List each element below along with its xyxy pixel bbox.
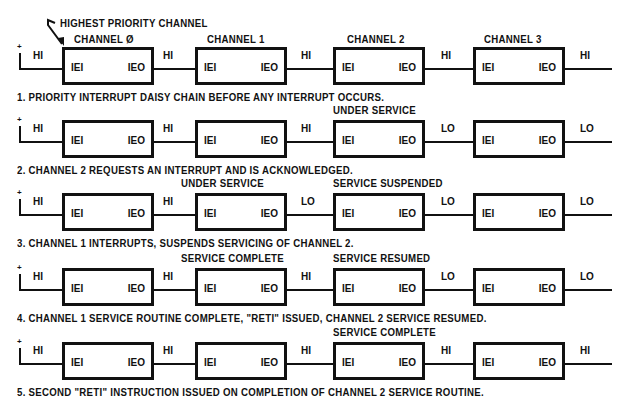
supply-wire <box>19 53 21 69</box>
channel-box-1: IEIIEO <box>195 47 287 85</box>
step-caption: 1. PRIORITY INTERRUPT DAISY CHAIN BEFORE… <box>17 92 384 103</box>
signal-level-4: LO <box>580 123 594 134</box>
channel-label-3: CHANNEL 3 <box>484 34 542 45</box>
channel-box-0: IEIIEO <box>62 193 154 231</box>
ieo-pin-label: IEO <box>128 135 145 146</box>
iei-pin-label: IEI <box>482 62 494 73</box>
channel-box-3: IEIIEO <box>473 47 565 85</box>
channel-box-0: IEIIEO <box>62 47 154 85</box>
channel-box-2: IEIIEO <box>333 268 425 306</box>
signal-level-0: HI <box>33 345 43 356</box>
supply-wire <box>19 348 21 364</box>
iei-pin-label: IEI <box>482 283 494 294</box>
chain-wire-3 <box>425 289 473 291</box>
signal-level-3: LO <box>441 271 455 282</box>
channel-box-2: IEIIEO <box>333 47 425 85</box>
channel-box-2: IEIIEO <box>333 193 425 231</box>
chain-wire-0 <box>19 289 62 291</box>
ieo-pin-label: IEO <box>261 283 278 294</box>
supply-wire <box>19 199 21 215</box>
signal-level-2: LO <box>301 196 315 207</box>
ieo-pin-label: IEO <box>399 357 416 368</box>
chain-wire-0 <box>19 363 62 365</box>
iei-pin-label: IEI <box>204 135 216 146</box>
channel-status-2: SERVICE COMPLETE <box>333 327 436 338</box>
channel-box-3: IEIIEO <box>473 342 565 380</box>
channel-box-1: IEIIEO <box>195 268 287 306</box>
chain-wire-3 <box>425 363 473 365</box>
chain-wire-3 <box>425 141 473 143</box>
supply-wire <box>19 274 21 290</box>
signal-level-3: HI <box>441 50 451 61</box>
channel-box-2: IEIIEO <box>333 120 425 158</box>
channel-status-2: SERVICE SUSPENDED <box>333 178 443 189</box>
signal-level-3: HI <box>441 345 451 356</box>
signal-level-4: HI <box>580 345 590 356</box>
iei-pin-label: IEI <box>71 135 83 146</box>
iei-pin-label: IEI <box>342 62 354 73</box>
chain-wire-2 <box>287 289 333 291</box>
iei-pin-label: IEI <box>204 62 216 73</box>
chain-wire-0 <box>19 214 62 216</box>
iei-pin-label: IEI <box>71 62 83 73</box>
chain-wire-2 <box>287 214 333 216</box>
ieo-pin-label: IEO <box>261 357 278 368</box>
supply-plus-symbol: + <box>17 188 22 197</box>
signal-level-3: LO <box>441 196 455 207</box>
channel-box-3: IEIIEO <box>473 193 565 231</box>
channel-box-1: IEIIEO <box>195 120 287 158</box>
ieo-pin-label: IEO <box>539 208 556 219</box>
ieo-pin-label: IEO <box>539 283 556 294</box>
ieo-pin-label: IEO <box>261 135 278 146</box>
chain-wire-4 <box>565 363 612 365</box>
ieo-pin-label: IEO <box>128 62 145 73</box>
chain-wire-3 <box>425 68 473 70</box>
channel-box-1: IEIIEO <box>195 342 287 380</box>
iei-pin-label: IEI <box>342 135 354 146</box>
channel-status-2: SERVICE RESUMED <box>333 253 430 264</box>
chain-wire-1 <box>154 214 195 216</box>
channel-status-1: UNDER SERVICE <box>181 178 264 189</box>
channel-box-1: IEIIEO <box>195 193 287 231</box>
step-caption: 4. CHANNEL 1 SERVICE ROUTINE COMPLETE, "… <box>17 313 487 324</box>
chain-wire-0 <box>19 68 62 70</box>
ieo-pin-label: IEO <box>128 283 145 294</box>
iei-pin-label: IEI <box>204 283 216 294</box>
signal-level-2: HI <box>301 123 311 134</box>
channel-box-0: IEIIEO <box>62 268 154 306</box>
iei-pin-label: IEI <box>482 208 494 219</box>
ieo-pin-label: IEO <box>539 357 556 368</box>
step-caption: 3. CHANNEL 1 INTERRUPTS, SUSPENDS SERVIC… <box>17 238 354 249</box>
supply-plus-symbol: + <box>17 115 22 124</box>
signal-level-0: HI <box>33 123 43 134</box>
chain-wire-1 <box>154 141 195 143</box>
channel-box-0: IEIIEO <box>62 342 154 380</box>
chain-wire-4 <box>565 289 612 291</box>
iei-pin-label: IEI <box>71 208 83 219</box>
chain-wire-1 <box>154 363 195 365</box>
signal-level-1: HI <box>163 271 173 282</box>
chain-wire-2 <box>287 363 333 365</box>
signal-level-2: HI <box>301 271 311 282</box>
chain-wire-2 <box>287 68 333 70</box>
supply-plus-symbol: + <box>17 263 22 272</box>
signal-level-1: HI <box>163 196 173 207</box>
step-caption: 2. CHANNEL 2 REQUESTS AN INTERRUPT AND I… <box>17 165 353 176</box>
chain-wire-4 <box>565 68 612 70</box>
supply-plus-symbol: + <box>17 42 22 51</box>
chain-wire-1 <box>154 68 195 70</box>
ieo-pin-label: IEO <box>128 208 145 219</box>
chain-wire-4 <box>565 214 612 216</box>
chain-wire-2 <box>287 141 333 143</box>
iei-pin-label: IEI <box>342 283 354 294</box>
signal-level-1: HI <box>163 123 173 134</box>
ieo-pin-label: IEO <box>128 357 145 368</box>
iei-pin-label: IEI <box>342 357 354 368</box>
chain-wire-4 <box>565 141 612 143</box>
iei-pin-label: IEI <box>482 357 494 368</box>
supply-wire <box>19 126 21 142</box>
signal-level-0: HI <box>33 196 43 207</box>
signal-level-3: LO <box>441 123 455 134</box>
iei-pin-label: IEI <box>204 357 216 368</box>
chain-wire-3 <box>425 214 473 216</box>
